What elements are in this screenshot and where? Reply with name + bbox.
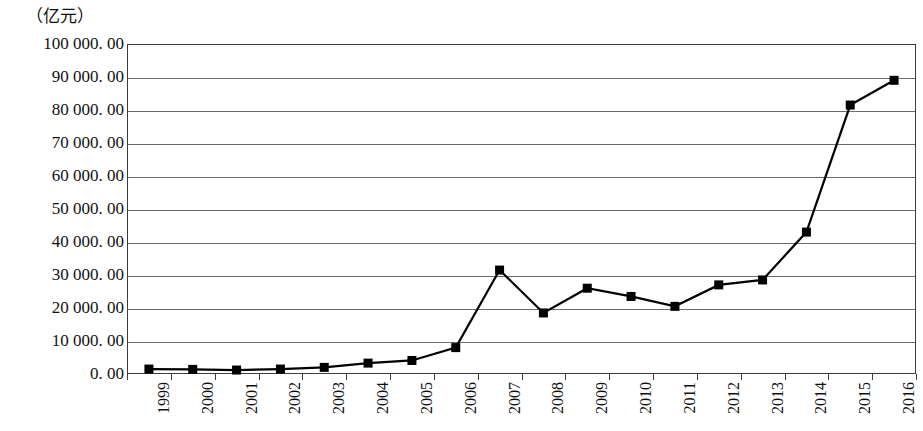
- x-axis-tick: [565, 374, 566, 380]
- y-axis-tick-label: 50 000. 00: [0, 200, 124, 217]
- y-axis-tick-label: 10 000. 00: [0, 332, 124, 349]
- y-axis-tick-label: 90 000. 00: [0, 68, 124, 85]
- x-axis-tick-label: 2016: [901, 382, 917, 414]
- x-axis-tick: [653, 374, 654, 380]
- x-axis-tick-label: 2003: [331, 382, 347, 414]
- gridline: [128, 111, 915, 112]
- gridline: [128, 309, 915, 310]
- x-axis-tick-label: 2009: [594, 382, 610, 414]
- y-axis-tick-label: 40 000. 00: [0, 233, 124, 250]
- gridline: [128, 342, 915, 343]
- y-axis-tick-label: 20 000. 00: [0, 299, 124, 316]
- x-axis-tick: [434, 374, 435, 380]
- x-axis-tick-label: 2012: [726, 382, 742, 414]
- x-axis-tick-label: 2000: [200, 382, 216, 414]
- y-axis-tick-label: 80 000. 00: [0, 101, 124, 118]
- y-axis-tick-label: 60 000. 00: [0, 167, 124, 184]
- x-axis-tick: [609, 374, 610, 380]
- x-axis-tick: [127, 374, 128, 380]
- x-axis-tick: [215, 374, 216, 380]
- x-axis-tick: [171, 374, 172, 380]
- x-axis-tick-label: 2007: [507, 382, 523, 414]
- gridline: [128, 276, 915, 277]
- x-axis-tick-label: 2006: [463, 382, 479, 414]
- x-axis-tick: [828, 374, 829, 380]
- y-axis-tick-label: 70 000. 00: [0, 134, 124, 151]
- x-axis-tick: [390, 374, 391, 380]
- gridline: [128, 78, 915, 79]
- y-axis-tick-label: 100 000. 00: [0, 35, 124, 52]
- x-axis-tick-label: 2015: [857, 382, 873, 414]
- x-axis-tick: [346, 374, 347, 380]
- x-axis-tick-label: 2005: [419, 382, 435, 414]
- x-axis-tick-label: 2001: [244, 382, 260, 414]
- x-axis-tick-label: 2010: [638, 382, 654, 414]
- gridline: [128, 177, 915, 178]
- x-axis-tick: [785, 374, 786, 380]
- plot-area: [127, 44, 916, 374]
- chart-container: （亿元） 0. 0010 000. 0020 000. 0030 000. 00…: [0, 0, 923, 431]
- y-axis-tick-label: 30 000. 00: [0, 266, 124, 283]
- x-axis-tick: [741, 374, 742, 380]
- y-axis-tick-labels: 0. 0010 000. 0020 000. 0030 000. 0040 00…: [0, 0, 124, 431]
- gridline: [128, 144, 915, 145]
- gridline: [128, 243, 915, 244]
- x-axis-tick: [872, 374, 873, 380]
- x-axis-tick: [302, 374, 303, 380]
- x-axis-tick: [916, 374, 917, 380]
- x-axis-tick-label: 2013: [770, 382, 786, 414]
- x-axis-tick: [259, 374, 260, 380]
- y-axis-tick-label: 0. 00: [0, 365, 124, 382]
- x-axis-tick-label: 2014: [813, 382, 829, 414]
- x-axis-tick-label: 2002: [287, 382, 303, 414]
- x-axis-tick: [478, 374, 479, 380]
- x-axis-tick-label: 2008: [550, 382, 566, 414]
- x-axis-tick: [522, 374, 523, 380]
- x-axis-tick-label: 2011: [682, 382, 698, 413]
- x-axis-tick: [697, 374, 698, 380]
- x-axis-tick-label: 2004: [375, 382, 391, 414]
- gridline: [128, 210, 915, 211]
- x-axis-tick-label: 1999: [156, 382, 172, 414]
